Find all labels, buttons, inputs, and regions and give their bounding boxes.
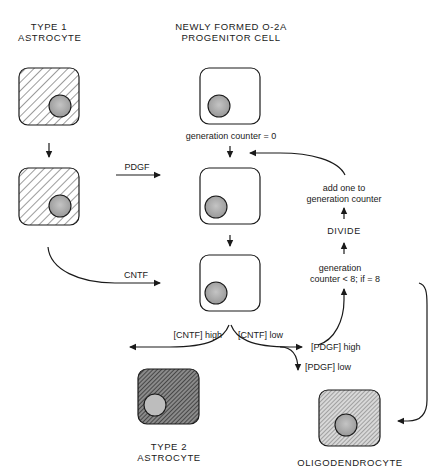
generation-counter-zero-label: generation counter = 0 bbox=[183, 131, 279, 142]
header-line-1: TYPE 1 bbox=[18, 21, 80, 32]
oligodendrocyte-label: OLIGODENDROCYTE bbox=[296, 457, 404, 468]
type2-astrocyte-label: TYPE 2 ASTROCYTE bbox=[136, 441, 202, 463]
pdgf-low-arrow bbox=[280, 347, 298, 370]
pdgf-high-label: [PDGF] high bbox=[311, 342, 375, 353]
divide-label: DIVIDE bbox=[318, 226, 370, 237]
counter-condition-line-1: generation bbox=[310, 263, 370, 274]
progenitor-header: NEWLY FORMED O-2A PROGENITOR CELL bbox=[168, 21, 294, 43]
header-line-2: ASTROCYTE bbox=[18, 32, 80, 43]
cntf-high-label: [CNTF] high bbox=[160, 330, 222, 341]
type2-line-2: ASTROCYTE bbox=[136, 452, 202, 463]
cntf-low-label: [CNTF] low bbox=[238, 330, 298, 341]
add-one-label: add one to generation counter bbox=[295, 183, 393, 205]
feedback-arrow bbox=[250, 153, 345, 175]
cntf-label: CNTF bbox=[120, 270, 152, 281]
progenitor-cell-2 bbox=[200, 168, 260, 224]
type2-astrocyte-cell bbox=[138, 369, 199, 424]
pdgf-label: PDGF bbox=[122, 162, 152, 173]
type1-astrocyte-header: TYPE 1 ASTROCYTE bbox=[18, 21, 80, 43]
counter-equals-8-arrow bbox=[398, 283, 427, 421]
type2-line-1: TYPE 2 bbox=[136, 441, 202, 452]
progenitor-cell-3 bbox=[200, 255, 260, 311]
counter-condition-line-2: counter < 8; if = 8 bbox=[310, 274, 410, 285]
header-line-1: NEWLY FORMED O-2A bbox=[168, 21, 294, 32]
type1-astrocyte-bottom-cell bbox=[19, 168, 79, 225]
add-one-line-1: add one to bbox=[295, 183, 393, 194]
pdgf-high-arrow bbox=[318, 289, 344, 345]
pdgf-low-label: [PDGF] low bbox=[305, 362, 369, 373]
header-line-2: PROGENITOR CELL bbox=[168, 32, 294, 43]
diagram-canvas bbox=[0, 0, 442, 474]
type1-astrocyte-top-cell bbox=[19, 68, 79, 125]
progenitor-cell-1 bbox=[200, 68, 260, 124]
add-one-line-2: generation counter bbox=[295, 194, 393, 205]
oligodendrocyte-cell bbox=[319, 390, 380, 446]
